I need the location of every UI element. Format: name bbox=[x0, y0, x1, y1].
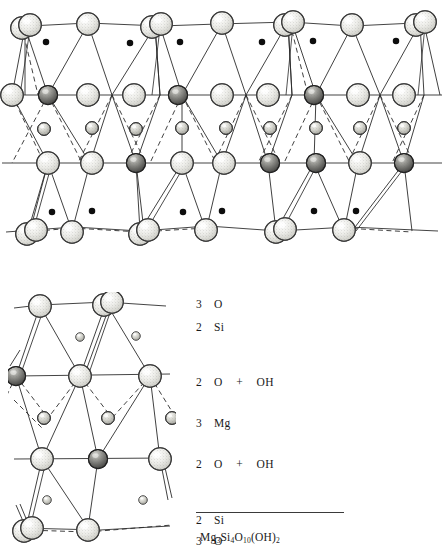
atom-si bbox=[353, 208, 360, 215]
atom-oh bbox=[306, 153, 325, 172]
atom-si bbox=[139, 496, 148, 505]
atom-si bbox=[310, 38, 317, 45]
atom-mg bbox=[38, 123, 51, 136]
formula-element: Si bbox=[220, 531, 230, 543]
atom-o bbox=[81, 152, 104, 175]
atom-o bbox=[257, 84, 280, 107]
legend-species: Si bbox=[214, 514, 224, 526]
atom-mg bbox=[176, 122, 189, 135]
atom-oh bbox=[260, 153, 279, 172]
atom-oh bbox=[88, 449, 107, 468]
atom-o bbox=[61, 221, 84, 244]
atom-o bbox=[25, 219, 48, 242]
oxygen-hydroxyl-layer-lower bbox=[37, 152, 414, 175]
atom-o bbox=[347, 84, 370, 107]
atom-o bbox=[77, 84, 100, 107]
legend-count: 3 bbox=[196, 417, 214, 429]
atom-o bbox=[274, 218, 297, 241]
atom-si bbox=[311, 208, 318, 215]
atom-o bbox=[213, 152, 236, 175]
atom-o bbox=[393, 84, 416, 107]
atom-o bbox=[195, 219, 218, 242]
atom-o bbox=[282, 11, 305, 34]
atom-o bbox=[37, 152, 60, 175]
atom-o bbox=[19, 14, 42, 37]
atom-o bbox=[333, 219, 356, 242]
atom-si bbox=[43, 39, 50, 46]
atom-oh bbox=[38, 85, 57, 104]
atom-mg bbox=[102, 412, 115, 425]
atom-oh bbox=[126, 153, 145, 172]
formula-element: (OH) bbox=[251, 531, 276, 543]
atom-si bbox=[76, 333, 85, 342]
legend-species: Si bbox=[214, 321, 224, 333]
legend-row: 2O+OH bbox=[196, 376, 274, 388]
legend-count: 2 bbox=[196, 376, 214, 388]
formula-subscript: 4 bbox=[230, 536, 234, 545]
atom-o bbox=[341, 14, 364, 37]
formula-subscript: 10 bbox=[243, 536, 251, 545]
atom-mg bbox=[310, 122, 323, 135]
legend-row: 2Si bbox=[196, 321, 224, 333]
atom-si bbox=[43, 496, 52, 505]
legend-separator-rule bbox=[196, 512, 344, 513]
talc-structure-figure: 3O2Si2O+OH3Mg2O+OH2Si3O Mg3Si4O10(OH)2 bbox=[0, 0, 444, 556]
atom-o bbox=[211, 84, 234, 107]
legend-species: O bbox=[214, 458, 223, 470]
legend-species-secondary: OH bbox=[257, 376, 274, 388]
atom-mg bbox=[86, 122, 99, 135]
legend-row: 2O+OH bbox=[196, 458, 274, 470]
legend-count: 3 bbox=[196, 298, 214, 310]
legend-count: 2 bbox=[196, 514, 214, 526]
atom-o bbox=[349, 152, 372, 175]
atom-o bbox=[101, 291, 124, 314]
legend-row: 3O bbox=[196, 298, 223, 310]
atom-o bbox=[171, 152, 194, 175]
atom-o bbox=[150, 13, 173, 36]
formula-element: Mg bbox=[200, 531, 216, 543]
atom-o bbox=[414, 11, 437, 34]
atom-si bbox=[259, 39, 266, 46]
atom-oh bbox=[6, 366, 25, 385]
atom-o bbox=[149, 448, 172, 471]
atom-oh bbox=[394, 153, 413, 172]
chemical-formula: Mg3Si4O10(OH)2 bbox=[200, 531, 280, 543]
atom-si bbox=[177, 39, 184, 46]
atom-mg bbox=[130, 123, 143, 136]
formula-subscript: 3 bbox=[216, 536, 220, 545]
legend-species: O bbox=[214, 376, 223, 388]
legend-count: 2 bbox=[196, 458, 214, 470]
legend-species-secondary: OH bbox=[257, 458, 274, 470]
atom-si bbox=[89, 208, 96, 215]
legend-species: Mg bbox=[214, 417, 231, 429]
legend-plus-sign: + bbox=[223, 376, 257, 388]
atom-si bbox=[127, 40, 134, 47]
legend-row: 2Si bbox=[196, 514, 224, 526]
atom-o bbox=[139, 365, 162, 388]
atom-mg bbox=[38, 412, 51, 425]
legend-plus-sign: + bbox=[223, 458, 257, 470]
atom-o bbox=[31, 448, 54, 471]
legend-row: 3Mg bbox=[196, 417, 231, 429]
legend-count: 2 bbox=[196, 321, 214, 333]
atom-si bbox=[180, 209, 187, 216]
structure-diagram-canvas bbox=[0, 0, 444, 556]
atom-oh bbox=[304, 85, 323, 104]
atom-o bbox=[29, 295, 52, 318]
atom-si bbox=[219, 208, 226, 215]
atom-si bbox=[132, 332, 141, 341]
atom-mg bbox=[264, 122, 277, 135]
legend-species: O bbox=[214, 298, 223, 310]
atom-oh bbox=[168, 85, 187, 104]
atom-o bbox=[123, 84, 146, 107]
atom-o bbox=[69, 365, 92, 388]
atom-mg bbox=[354, 122, 367, 135]
atom-o bbox=[77, 13, 100, 36]
formula-subscript: 2 bbox=[276, 536, 280, 545]
atom-mg bbox=[220, 122, 233, 135]
atom-o bbox=[21, 517, 44, 540]
atom-si bbox=[49, 209, 56, 216]
atom-o bbox=[211, 12, 234, 35]
atom-mg bbox=[398, 122, 411, 135]
atom-o bbox=[77, 519, 100, 542]
